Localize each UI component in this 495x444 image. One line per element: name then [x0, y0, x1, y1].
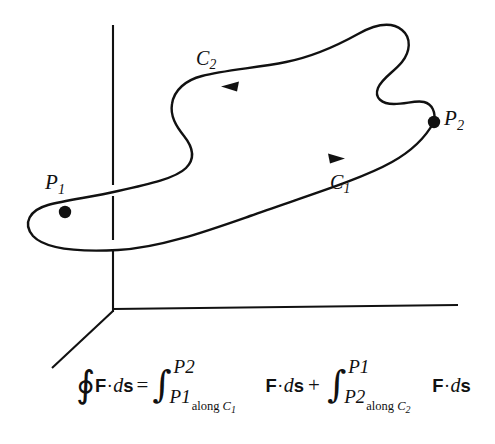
integral-term-2: ∫ P1 P2along C2 F·ds: [327, 362, 471, 408]
plus-sign: +: [308, 373, 320, 398]
lower-limit-2: P2along C2: [344, 386, 410, 415]
path-label-c2: C2: [196, 48, 216, 72]
line-integral-equation: ∮ F·ds = ∫ P2 P1along C1 F·ds + ∫ P1 P2a…: [76, 352, 471, 418]
arrowhead-c2: [221, 82, 239, 92]
point-marker-p2: [428, 116, 440, 128]
point-marker-p1: [59, 206, 71, 218]
integrand-term-2: F·ds: [432, 374, 470, 397]
integrand-lhs: F·ds: [95, 374, 133, 397]
point-label-p1: P1: [45, 172, 65, 196]
equals-sign: =: [136, 373, 148, 398]
point-label-p2: P2: [444, 108, 464, 132]
upper-limit-2: P1: [348, 356, 369, 378]
axis-horizontal: [113, 305, 458, 309]
path-label-c1: C1: [330, 172, 350, 196]
lower-limit-1: P1along C1: [170, 386, 236, 415]
along-curve-2: along C2: [366, 399, 410, 413]
arrowhead-c1: [328, 154, 345, 164]
closed-space-curve: [28, 25, 435, 251]
contour-integral-symbol: ∮: [76, 370, 95, 400]
integrand-term-1: F·ds: [266, 374, 304, 397]
upper-limit-1: P2: [174, 356, 195, 378]
coordinate-axes: [52, 25, 458, 368]
integral-term-1: ∫ P2 P1along C1 F·ds: [152, 362, 304, 408]
along-curve-1: along C1: [192, 399, 236, 413]
